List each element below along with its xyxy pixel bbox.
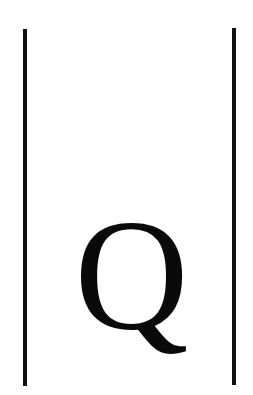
right-vertical-bar bbox=[232, 28, 236, 385]
letter-q: Q bbox=[0, 196, 253, 354]
